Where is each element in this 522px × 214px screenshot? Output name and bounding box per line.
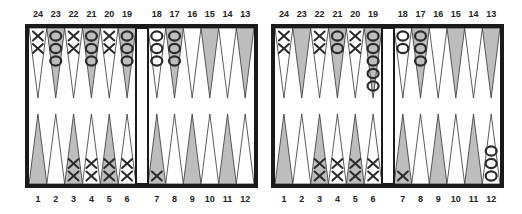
point-label: 22 (311, 9, 329, 19)
point-label: 24 (275, 9, 293, 19)
bar (136, 28, 148, 184)
point-label: 3 (311, 194, 329, 204)
point-label: 6 (118, 194, 136, 204)
point-label: 8 (166, 194, 184, 204)
point-label: 10 (201, 194, 219, 204)
point-label: 3 (65, 194, 83, 204)
point-label: 2 (293, 194, 311, 204)
point-label: 11 (465, 194, 483, 204)
point-label: 2 (47, 194, 65, 204)
point-label: 23 (47, 9, 65, 19)
point-label: 7 (148, 194, 166, 204)
point-label: 9 (183, 194, 201, 204)
backgammon-board-right (271, 24, 504, 188)
point-label: 13 (482, 9, 500, 19)
point-label: 16 (183, 9, 201, 19)
point-label: 14 (465, 9, 483, 19)
point-label: 21 (328, 9, 346, 19)
point-label: 17 (166, 9, 184, 19)
point-label: 13 (236, 9, 254, 19)
point-label: 6 (364, 194, 382, 204)
point-label: 8 (412, 194, 430, 204)
point-label: 22 (65, 9, 83, 19)
bar (382, 28, 394, 184)
point-label: 15 (201, 9, 219, 19)
point-label: 19 (118, 9, 136, 19)
point-label: 1 (29, 194, 47, 204)
point-label: 15 (447, 9, 465, 19)
point-label: 11 (219, 194, 237, 204)
point-label: 20 (100, 9, 118, 19)
point-label: 17 (412, 9, 430, 19)
point-label: 21 (82, 9, 100, 19)
point-label: 12 (236, 194, 254, 204)
point-label: 4 (82, 194, 100, 204)
point-label: 4 (328, 194, 346, 204)
point-label: 18 (148, 9, 166, 19)
point-label: 14 (219, 9, 237, 19)
point-label: 7 (394, 194, 412, 204)
point-label: 20 (346, 9, 364, 19)
point-label: 12 (482, 194, 500, 204)
point-label: 19 (364, 9, 382, 19)
point-label: 23 (293, 9, 311, 19)
point-label: 18 (394, 9, 412, 19)
point-label: 1 (275, 194, 293, 204)
point-label: 24 (29, 9, 47, 19)
point-label: 5 (100, 194, 118, 204)
point-label: 10 (447, 194, 465, 204)
point-label: 5 (346, 194, 364, 204)
backgammon-board-left (25, 24, 258, 188)
point-label: 9 (429, 194, 447, 204)
point-label: 16 (429, 9, 447, 19)
